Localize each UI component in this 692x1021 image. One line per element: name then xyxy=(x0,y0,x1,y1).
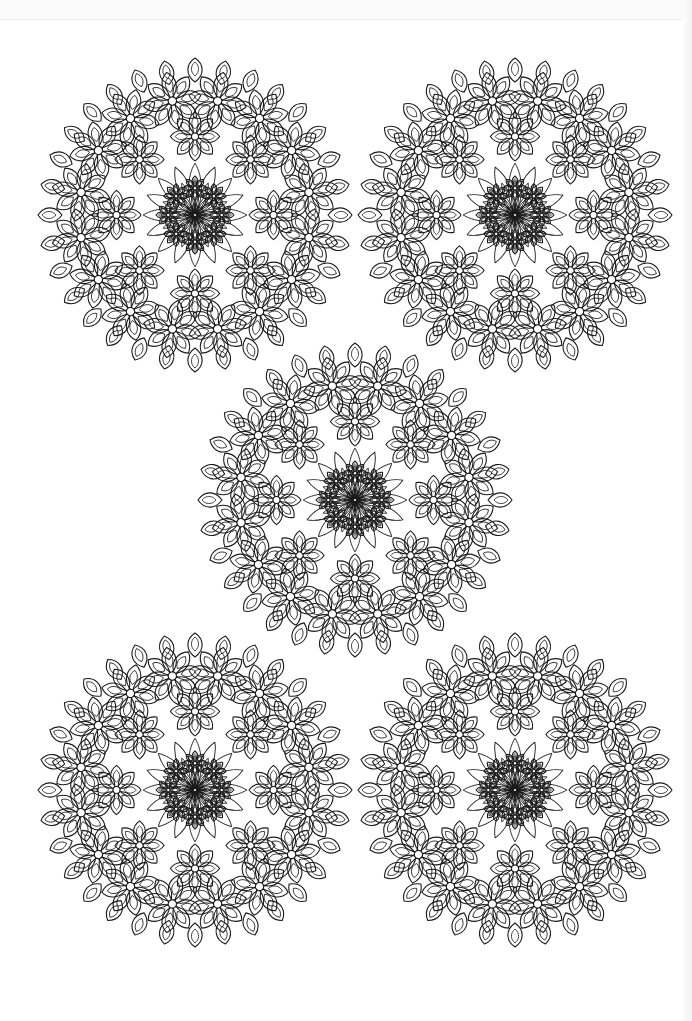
mandala-top-right xyxy=(355,55,675,375)
mandala-bottom-right xyxy=(355,630,675,950)
scan-top-band xyxy=(0,0,692,20)
mandala-top-left xyxy=(35,55,355,375)
scan-right-edge xyxy=(683,0,692,1021)
mandala-middle xyxy=(195,340,515,660)
mandala-bottom-left xyxy=(35,630,355,950)
